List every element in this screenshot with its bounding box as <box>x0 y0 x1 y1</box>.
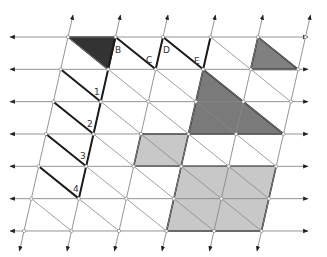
grid-node <box>209 35 212 38</box>
grid-node <box>165 229 168 232</box>
grid-node <box>304 35 307 38</box>
grid-node <box>132 165 135 168</box>
grid-node <box>172 197 175 200</box>
grid-node <box>44 132 47 135</box>
grid-node <box>249 68 252 71</box>
grid-node <box>242 100 245 103</box>
grid-node <box>220 197 223 200</box>
grid-node <box>66 35 69 38</box>
grid-node <box>297 68 300 71</box>
grid-node <box>194 100 197 103</box>
grid-node <box>234 132 237 135</box>
label-3: 3 <box>80 151 86 161</box>
grid-node <box>256 35 259 38</box>
grid-node <box>180 165 183 168</box>
grid-node <box>107 68 110 71</box>
segment-2 <box>53 102 93 134</box>
grid-node <box>212 229 215 232</box>
parallelogram-grid-diagram: B C D E 1 2 3 4 <box>0 0 327 257</box>
segment-C-D <box>156 37 163 69</box>
label-1: 1 <box>94 87 100 97</box>
grid-node <box>202 68 205 71</box>
grid-node <box>227 165 230 168</box>
grid-node <box>187 132 190 135</box>
grid-node <box>85 165 88 168</box>
grid-node <box>70 229 73 232</box>
label-D: D <box>163 45 170 55</box>
grid-node <box>77 197 80 200</box>
grid-node <box>114 35 117 38</box>
grid-node <box>267 197 270 200</box>
grid-node <box>22 229 25 232</box>
label-B: B <box>115 45 121 55</box>
grid-node <box>154 68 157 71</box>
gray-triangle-top-right <box>251 37 299 69</box>
grid-node <box>282 132 285 135</box>
label-C: C <box>146 55 152 65</box>
grid-node <box>99 100 102 103</box>
grid-node <box>52 100 55 103</box>
diagonal-line <box>31 199 71 231</box>
grid-node <box>161 35 164 38</box>
grid-node <box>92 132 95 135</box>
grid-node <box>117 229 120 232</box>
segment-E-top <box>203 37 210 69</box>
grid-node <box>37 165 40 168</box>
label-2: 2 <box>87 119 93 129</box>
label-4: 4 <box>73 184 79 194</box>
grid-node <box>139 132 142 135</box>
grid-node <box>275 165 278 168</box>
grid-node <box>30 197 33 200</box>
grid-node <box>260 229 263 232</box>
grid-node <box>147 100 150 103</box>
label-E: E <box>194 56 200 66</box>
grid-node <box>59 68 62 71</box>
grid-node <box>125 197 128 200</box>
grid-node <box>289 100 292 103</box>
